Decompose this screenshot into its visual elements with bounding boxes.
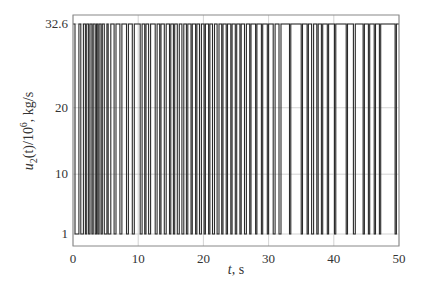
control-signal-line bbox=[73, 24, 399, 234]
signal-trace bbox=[73, 24, 399, 234]
y-tick-label: 20 bbox=[55, 100, 68, 115]
x-tick-label: 50 bbox=[393, 251, 406, 266]
x-tick-label: 30 bbox=[262, 251, 275, 266]
x-tick-label: 0 bbox=[70, 251, 77, 266]
y-tick-labels: 1102032.6 bbox=[45, 16, 68, 241]
y-axis-label: u2(t)/106, kg/s bbox=[18, 92, 39, 170]
y-tick-label: 1 bbox=[62, 226, 69, 241]
y-tick-label: 32.6 bbox=[45, 16, 68, 31]
x-axis-label: t, s bbox=[228, 262, 244, 277]
x-tick-label: 10 bbox=[132, 251, 145, 266]
x-tick-label: 20 bbox=[197, 251, 210, 266]
chart: 01020304050 1102032.6 t, s u2(t)/106, kg… bbox=[0, 0, 421, 288]
y-tick-label: 10 bbox=[55, 166, 68, 181]
x-tick-label: 40 bbox=[327, 251, 340, 266]
